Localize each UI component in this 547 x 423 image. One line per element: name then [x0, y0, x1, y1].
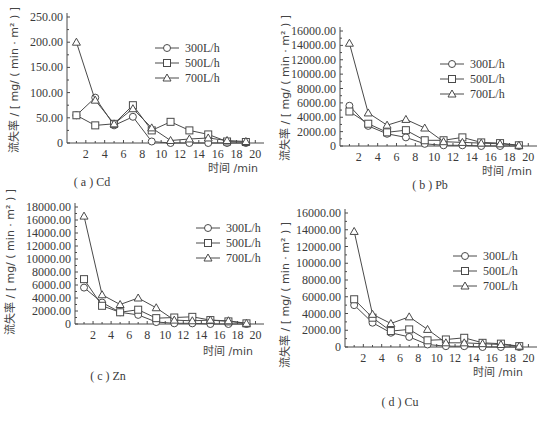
y-tick-label: 6000.00 [32, 278, 71, 292]
legend-label: 500L/h [226, 236, 261, 250]
legend-item: 700L/h [453, 279, 518, 293]
x-tick-label: 12 [174, 147, 186, 161]
x-tick-label: 8 [139, 147, 145, 161]
y-tick-label: 6000.00 [302, 290, 341, 304]
square-marker-icon [387, 328, 394, 335]
y-tick-label: 0 [335, 340, 341, 354]
series-300l-h [73, 94, 249, 146]
legend-label: 500L/h [470, 72, 505, 86]
legend-item: 500L/h [453, 264, 518, 278]
legend: 300L/h500L/h700L/h [440, 57, 505, 101]
square-marker-icon [73, 112, 80, 119]
square-marker-icon [365, 120, 372, 127]
legend-label: 300L/h [483, 249, 518, 263]
legend-label: 700L/h [470, 87, 505, 101]
legend-label: 700L/h [226, 251, 261, 265]
triangle-marker-icon [421, 124, 429, 131]
chart-svg: 050.00100.00150.00200.00250.002468101214… [0, 0, 275, 200]
y-tick-label: 10000.00 [26, 252, 71, 266]
square-marker-icon [92, 122, 99, 129]
legend: 300L/h500L/h700L/h [155, 41, 220, 85]
legend-label: 300L/h [185, 41, 220, 55]
x-tick-label: 6 [126, 328, 132, 342]
y-axis-title: 流失率 / [ mg/ ( min · m² ) ] [278, 222, 292, 368]
x-tick-label: 16 [213, 328, 225, 342]
triangle-marker-icon [405, 313, 413, 320]
square-marker-icon [421, 137, 428, 144]
y-tick-label: 4000.00 [302, 307, 341, 321]
x-tick-label: 8 [144, 328, 150, 342]
chart-caption: ( c ) Zn [90, 369, 126, 383]
x-tick-label: 18 [231, 328, 243, 342]
x-tick-label: 4 [375, 150, 381, 164]
legend-label: 700L/h [483, 279, 518, 293]
legend-label: 500L/h [185, 56, 220, 70]
square-marker-icon [186, 127, 193, 134]
square-marker-icon [449, 76, 456, 83]
circle-marker-icon [205, 225, 212, 232]
y-tick-label: 14000.00 [296, 223, 341, 237]
x-tick-label: 12 [177, 328, 189, 342]
chart-caption: ( b ) Pb [412, 178, 448, 192]
x-axis-title: 时间 /min [203, 345, 253, 358]
y-tick-label: 0 [57, 136, 63, 150]
y-tick-label: 16000.00 [296, 206, 341, 220]
circle-marker-icon [164, 45, 171, 52]
legend-item: 500L/h [440, 72, 505, 86]
chart-svg: 02000.004000.006000.008000.0010000.00120… [275, 0, 547, 200]
legend-item: 700L/h [440, 87, 505, 101]
legend: 300L/h500L/h700L/h [453, 249, 518, 293]
series-line [84, 279, 247, 323]
y-tick-label: 0 [330, 139, 336, 153]
series-line [84, 216, 247, 323]
chart-panel-zn: 02000.004000.006000.008000.0010000.00120… [0, 200, 275, 423]
x-tick-label: 18 [230, 147, 242, 161]
y-tick-label: 2000.00 [32, 304, 71, 318]
x-tick-label: 8 [412, 150, 418, 164]
y-tick-label: 10000.00 [296, 256, 341, 270]
triangle-marker-icon [387, 320, 395, 327]
chart-caption: ( a ) Cd [74, 175, 110, 189]
x-tick-label: 16 [485, 150, 497, 164]
y-tick-label: 250.00 [30, 10, 63, 24]
legend-item: 700L/h [196, 251, 261, 265]
square-marker-icon [99, 302, 106, 309]
y-tick-label: 8000.00 [297, 82, 336, 96]
square-marker-icon [424, 337, 431, 344]
x-axis-title: 时间 /min [208, 162, 258, 175]
x-tick-label: 10 [159, 328, 171, 342]
square-marker-icon [384, 129, 391, 136]
x-axis-title: 时间 /min [473, 366, 523, 379]
square-marker-icon [81, 276, 88, 283]
x-tick-label: 6 [397, 351, 403, 365]
legend: 300L/h500L/h700L/h [196, 221, 261, 265]
y-tick-label: 8000.00 [302, 273, 341, 287]
x-tick-label: 20 [522, 351, 534, 365]
y-tick-label: 6000.00 [297, 96, 336, 110]
x-tick-label: 2 [90, 328, 96, 342]
y-axis-title: 流失率 / [ mg/ ( min · m² ) ] [7, 7, 21, 153]
legend-item: 300L/h [155, 41, 220, 55]
chart-panel-cd: 050.00100.00150.00200.00250.002468101214… [0, 0, 275, 200]
y-tick-label: 4000.00 [297, 110, 336, 124]
square-marker-icon [346, 108, 353, 115]
legend-item: 300L/h [453, 249, 518, 263]
triangle-marker-icon [134, 294, 142, 301]
x-tick-label: 6 [393, 150, 399, 164]
y-tick-label: 8000.00 [32, 265, 71, 279]
x-tick-label: 2 [83, 147, 89, 161]
x-tick-label: 4 [379, 351, 385, 365]
triangle-marker-icon [80, 212, 88, 219]
circle-marker-icon [129, 113, 136, 120]
y-tick-label: 4000.00 [32, 291, 71, 305]
x-tick-label: 6 [120, 147, 126, 161]
legend-label: 500L/h [483, 264, 518, 278]
series-500l-h [346, 108, 522, 149]
legend-label: 700L/h [185, 71, 220, 85]
legend-label: 300L/h [470, 57, 505, 71]
x-tick-label: 12 [449, 351, 461, 365]
y-axis-title: 流失率 / [ mg/ ( min · m² ) ] [3, 189, 17, 335]
y-axis-title: 流失率 / [ mg/ ( min · m² ) ] [278, 15, 292, 161]
y-tick-label: 150.00 [30, 60, 63, 74]
x-tick-label: 14 [193, 147, 205, 161]
